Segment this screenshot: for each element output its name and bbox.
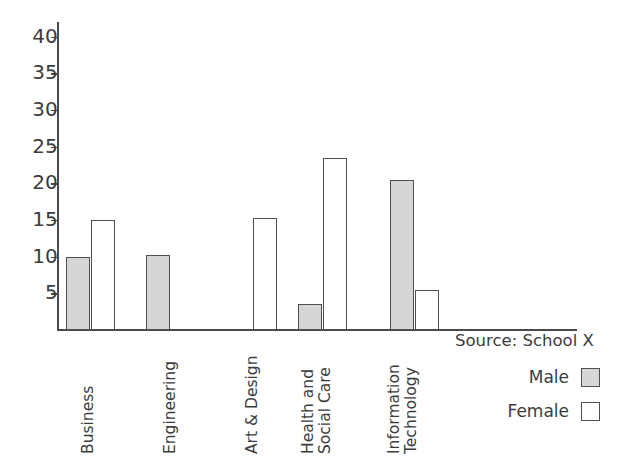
- legend-item-female: Female: [455, 394, 600, 428]
- y-axis-tick-label: 20: [24, 172, 58, 192]
- y-axis-tick-label: 15: [24, 209, 58, 229]
- legend-swatch-male-icon: [581, 368, 600, 387]
- x-axis-label-4: InformationTechnology: [386, 336, 402, 454]
- x-axis-label-line1: Health and: [300, 369, 316, 454]
- bar-male-1: [146, 255, 170, 330]
- legend-label-male: Male: [529, 367, 569, 387]
- y-axis-tick-label: 25: [24, 136, 58, 156]
- x-axis-label-line2: Social Care: [317, 367, 333, 454]
- bar-male-4: [390, 180, 414, 330]
- source-note: Source: School X: [455, 331, 594, 351]
- legend-label-female: Female: [508, 401, 569, 421]
- x-axis-label-2: Art & Design: [244, 336, 260, 454]
- x-axis-label-line1: Business: [80, 386, 96, 454]
- x-axis-label-3: Health andSocial Care: [300, 336, 316, 454]
- bar-chart: 510152025303540 BusinessEngineeringArt &…: [0, 0, 637, 467]
- y-axis-tick-label: 5: [24, 282, 58, 302]
- bar-female-3: [323, 158, 347, 330]
- plot-area: [58, 22, 577, 330]
- x-axis-label-line1: Engineering: [162, 361, 178, 454]
- bar-female-2: [253, 218, 277, 330]
- legend-swatch-female-icon: [581, 402, 600, 421]
- y-axis-tick-label: 30: [24, 99, 58, 119]
- bar-female-0: [91, 220, 115, 330]
- y-axis-tick-label: 10: [24, 246, 58, 266]
- bar-female-4: [415, 290, 439, 330]
- legend-item-male: Male: [455, 360, 600, 394]
- x-axis-label-line2: Technology: [403, 367, 419, 454]
- y-axis-tick-label: 40: [24, 26, 58, 46]
- bar-male-3: [298, 304, 322, 330]
- y-axis-tick-label: 35: [24, 62, 58, 82]
- chart-legend: Male Female: [455, 360, 600, 428]
- x-axis-label-0: Business: [80, 336, 96, 454]
- bar-male-0: [66, 257, 90, 330]
- x-axis-label-1: Engineering: [162, 336, 178, 454]
- x-axis-label-line1: Art & Design: [244, 355, 260, 454]
- x-axis-label-line1: Information: [386, 364, 402, 454]
